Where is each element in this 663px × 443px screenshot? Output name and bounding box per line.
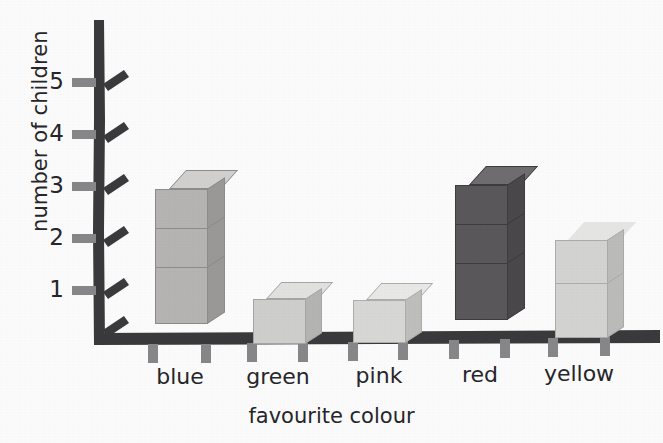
- cube-face-front: [555, 283, 608, 338]
- y-axis-title: number of children: [28, 32, 52, 232]
- cube-face-side: [405, 289, 422, 343]
- x-tick-label-yellow: yellow: [539, 361, 619, 386]
- cube-face-front: [353, 300, 406, 343]
- cube-face-side: [207, 255, 225, 324]
- cube-face-front: [253, 299, 306, 344]
- x-tick-label-red: red: [440, 362, 520, 387]
- cube-face-top: [366, 283, 433, 300]
- cube-face-side: [305, 288, 322, 344]
- cube-face-front: [155, 228, 208, 268]
- cube-face-top: [568, 222, 636, 240]
- cube-face-front: [155, 267, 208, 324]
- bar-blue[interactable]: [155, 170, 227, 344]
- cube-face-front: [455, 263, 508, 320]
- bar-pink[interactable]: [353, 283, 425, 343]
- bar-red[interactable]: [455, 166, 527, 340]
- x-axis-title: favourite colour: [0, 404, 663, 428]
- cube-face-front: [455, 185, 508, 225]
- cube-face-front: [155, 189, 208, 229]
- bar-chart: 5 4 3 2 1 blue green pink red yellow num…: [0, 0, 663, 443]
- x-tick-label-green: green: [238, 364, 318, 389]
- cube-face-top: [469, 166, 538, 185]
- bar-yellow[interactable]: [555, 222, 627, 338]
- cube-face-side: [507, 251, 525, 320]
- x-tick-label-blue: blue: [140, 364, 220, 389]
- cube-face-front: [455, 224, 508, 264]
- cube-face-top: [266, 282, 333, 299]
- bar-green[interactable]: [253, 282, 325, 344]
- cube-face-front: [555, 240, 608, 284]
- x-tick-label-pink: pink: [339, 363, 419, 388]
- cube-face-side: [607, 272, 624, 338]
- cube-face-top: [169, 170, 238, 189]
- y-tick-label-1: 1: [30, 276, 64, 302]
